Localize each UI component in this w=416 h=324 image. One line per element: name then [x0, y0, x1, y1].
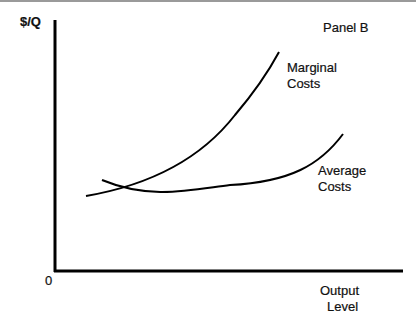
- panel-title: Panel B: [323, 20, 369, 35]
- origin-label: 0: [45, 273, 52, 288]
- ac-label-line2: Costs: [318, 179, 351, 194]
- marginal-cost-curve: [86, 52, 279, 196]
- x-axis-label-line1: Output: [320, 283, 359, 298]
- x-axis-label-line2: Level: [327, 299, 358, 314]
- y-axis-label: $/Q: [20, 14, 41, 29]
- cost-curves-plot: [0, 0, 416, 324]
- mc-label-line1: Marginal: [287, 60, 337, 75]
- ac-label-line1: Average: [318, 163, 366, 178]
- mc-label-line2: Costs: [287, 76, 320, 91]
